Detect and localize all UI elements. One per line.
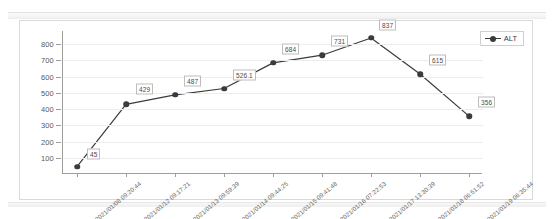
x-axis-tick	[371, 173, 372, 177]
x-axis-tick-label: 2021/01/12 09:17:21	[143, 180, 192, 219]
data-point-marker[interactable]	[466, 113, 472, 119]
x-axis-tick-label: 2021/01/18 06:51:52	[437, 180, 486, 219]
x-axis-tick	[175, 173, 176, 177]
x-axis-tick	[224, 173, 225, 177]
data-point-label: 487	[184, 75, 201, 86]
y-axis-tick	[56, 125, 61, 126]
plot-area: 10020030040050060070080045429487526.1684…	[62, 31, 482, 174]
y-axis-tick	[56, 77, 61, 78]
grid-line	[63, 125, 483, 126]
y-axis-tick	[56, 109, 61, 110]
x-axis-tick	[322, 173, 323, 177]
x-axis-tick-label: 2021/01/13 09:59:39	[192, 180, 241, 219]
y-axis-tick-label: 600	[41, 72, 54, 81]
x-axis-tick-label: 2021/01/16 07:22:53	[339, 180, 388, 219]
x-axis-tick-label: 2021/01/17 13:30:39	[388, 180, 437, 219]
data-point-marker[interactable]	[74, 164, 80, 170]
data-point-marker[interactable]	[319, 52, 325, 58]
legend-item-label: ALT	[504, 34, 517, 43]
chart-screenshot: ALT 10020030040050060070080045429487526.…	[0, 0, 555, 219]
x-axis-tick-label: 2021/01/15 09:41:48	[290, 180, 339, 219]
y-axis-tick-label: 800	[41, 40, 54, 49]
y-axis-tick	[56, 44, 61, 45]
grid-line	[63, 93, 483, 94]
y-axis-tick-label: 300	[41, 121, 54, 130]
panel-bottom-divider	[8, 202, 546, 207]
data-point-marker[interactable]	[417, 71, 423, 77]
x-axis-tick	[126, 173, 127, 177]
data-point-label: 684	[282, 43, 299, 54]
y-axis-tick-label: 500	[41, 88, 54, 97]
data-point-label: 45	[87, 148, 100, 159]
grid-line	[63, 109, 483, 110]
chart-legend[interactable]: ALT	[480, 31, 524, 46]
x-axis-tick	[420, 173, 421, 177]
grid-line	[63, 158, 483, 159]
y-axis-tick	[56, 93, 61, 94]
y-axis-tick	[56, 158, 61, 159]
data-point-label: 837	[379, 20, 396, 31]
legend-marker-icon	[485, 35, 501, 42]
grid-line	[63, 44, 483, 45]
y-axis-tick-label: 400	[41, 105, 54, 114]
data-point-marker[interactable]	[172, 92, 178, 98]
data-point-label: 429	[136, 84, 153, 95]
data-point-label: 356	[478, 97, 495, 108]
data-point-label: 615	[429, 55, 446, 66]
data-point-marker[interactable]	[368, 35, 374, 41]
y-axis-tick-label: 200	[41, 137, 54, 146]
x-axis-tick-label: 2021/01/14 09:44:25	[241, 180, 290, 219]
data-point-label: 731	[331, 36, 348, 47]
data-point-label: 526.1	[233, 69, 256, 80]
data-point-marker[interactable]	[270, 60, 276, 66]
x-axis-tick-label: 2021/01/19 06:35:44	[486, 180, 535, 219]
x-axis-tick	[469, 173, 470, 177]
y-axis-tick-label: 100	[41, 153, 54, 162]
y-axis-tick	[56, 60, 61, 61]
data-point-marker[interactable]	[221, 86, 227, 92]
x-axis-tick-label: 2021/01/08 09:20:44	[94, 180, 143, 219]
y-axis-tick	[56, 142, 61, 143]
y-axis-tick-label: 700	[41, 56, 54, 65]
data-point-marker[interactable]	[123, 102, 129, 108]
grid-line	[63, 142, 483, 143]
panel-top-divider	[8, 12, 546, 19]
x-axis-tick	[273, 173, 274, 177]
chart-panel: ALT 10020030040050060070080045429487526.…	[19, 20, 533, 200]
x-axis-tick	[77, 173, 78, 177]
